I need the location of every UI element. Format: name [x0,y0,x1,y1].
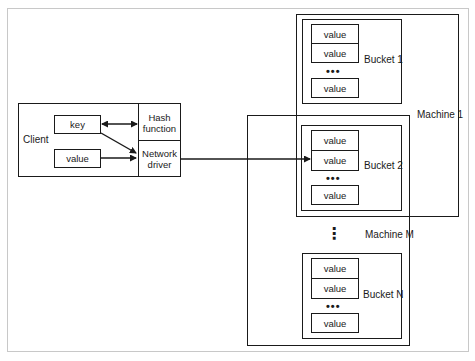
bucket-n-value-2: value [311,278,359,299]
hash-function-box: Hash function [138,103,181,142]
client-label: Client [23,134,49,146]
bucket-1-value-1: value [311,24,359,44]
machine-1-label: Machine 1 [417,109,463,121]
key-box: key [54,115,101,134]
bucket-1-ellipsis: ••• [326,67,341,75]
value-box: value [54,149,101,168]
bucket-2-ellipsis: ••• [326,174,341,182]
bucket-1-label: Bucket 1 [364,54,403,66]
bucket-n-label: Bucket N [363,289,404,301]
bucket-1-value-3: value [311,78,359,98]
bucket-n-ellipsis: ••• [326,302,341,310]
bucket-1-value-2: value [311,43,359,63]
bucket-2-label: Bucket 2 [364,160,403,172]
machine-m-label: Machine M [365,229,414,241]
bucket-n-value-3: value [311,313,359,333]
machine-m-vertical-ellipsis: ⋮ [326,226,342,242]
bucket-2-value-1: value [311,130,359,151]
bucket-2-value-3: value [311,185,359,205]
bucket-2-value-2: value [311,150,359,171]
network-driver-box: Network driver [138,140,181,177]
bucket-n-value-1: value [311,258,359,279]
